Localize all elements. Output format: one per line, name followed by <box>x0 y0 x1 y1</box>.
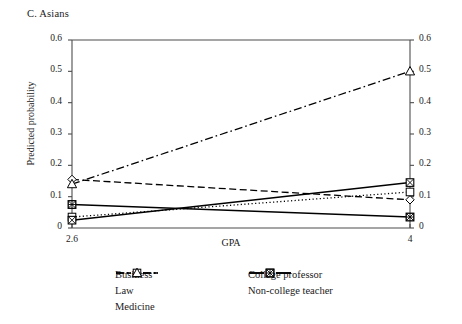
y-tick-label-right: 0.6 <box>419 33 449 43</box>
y-tick-label-right: 0.1 <box>419 190 449 200</box>
legend-key-filled-crossed-square <box>248 266 292 280</box>
y-tick-label-left: 0.5 <box>32 64 62 74</box>
legend-column-left: BusinessLawMedicine <box>115 266 155 314</box>
legend-key-open-triangle <box>115 266 159 280</box>
y-tick-label-left: 0 <box>32 221 62 231</box>
legend-item[interactable]: Non-college teacher <box>248 282 333 298</box>
legend-item-label: Law <box>115 285 134 296</box>
data-point-marker <box>132 268 141 276</box>
y-tick-label-right: 0.5 <box>419 64 449 74</box>
data-point-marker <box>405 67 414 75</box>
legend-column-right: College professorNon-college teacher <box>248 266 333 298</box>
chart-figure: C. Asians Predicted probability GPA 00.1… <box>0 0 462 324</box>
data-point-marker <box>406 213 413 220</box>
x-tick-label: 4 <box>390 234 430 244</box>
series-line <box>72 192 410 217</box>
y-tick-label-right: 0.4 <box>419 96 449 106</box>
series-medicine <box>67 67 414 188</box>
legend-item-label: Non-college teacher <box>248 285 333 296</box>
y-tick-label-left: 0.4 <box>32 96 62 106</box>
y-tick-label-left: 0.3 <box>32 127 62 137</box>
data-point-marker <box>68 201 75 208</box>
y-tick-label-right: 0 <box>419 221 449 231</box>
y-tick-label-right: 0.2 <box>419 158 449 168</box>
series-line <box>72 71 410 184</box>
series-non-college-teacher <box>68 201 414 221</box>
series-college-professor <box>68 179 414 224</box>
series-line <box>72 179 410 199</box>
data-point-marker <box>266 269 273 276</box>
legend-item[interactable]: Law <box>115 282 155 298</box>
y-tick-label-right: 0.3 <box>419 127 449 137</box>
plot-area <box>0 0 462 324</box>
y-tick-label-left: 0.6 <box>32 33 62 43</box>
y-tick-label-left: 0.2 <box>32 158 62 168</box>
y-tick-label-left: 0.1 <box>32 190 62 200</box>
legend-item-label: Medicine <box>115 301 155 312</box>
legend-item[interactable]: Medicine <box>115 298 155 314</box>
data-point-marker <box>406 188 414 196</box>
series-business <box>68 175 414 204</box>
x-tick-label: 2.6 <box>52 234 92 244</box>
